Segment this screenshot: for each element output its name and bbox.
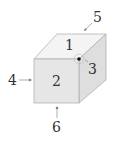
arrow-label-5: 5 [93, 10, 102, 24]
arrow-5 [85, 23, 92, 30]
arrow-label-4: 4 [8, 73, 17, 87]
arrow-label-6: 6 [52, 120, 61, 134]
face-label-2: 2 [52, 74, 61, 88]
corner-dot [77, 57, 81, 61]
face-label-3: 3 [88, 62, 97, 76]
face-label-1: 1 [65, 38, 74, 52]
arrowhead-6 [56, 106, 59, 109]
arrowhead-4 [29, 79, 32, 82]
